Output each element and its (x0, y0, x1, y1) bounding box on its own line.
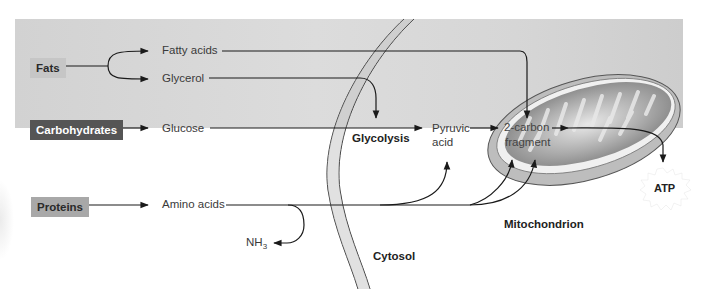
glycerol-label: Glycerol (162, 72, 204, 85)
nh3-label: NH3 (246, 236, 267, 253)
mitochondrion-label: Mitochondrion (504, 218, 584, 231)
two-carbon-label-line1: 2-carbon (504, 121, 549, 134)
fatty-acids-label: Fatty acids (162, 44, 218, 57)
glycolysis-label: Glycolysis (352, 132, 410, 145)
cytosol-label: Cytosol (373, 250, 415, 263)
page-edge-blotch (0, 180, 14, 260)
pyruvic-acid-label-line2: acid (432, 136, 453, 149)
carbohydrates-label: Carbohydrates (36, 124, 117, 136)
atp-label: ATP (654, 182, 675, 194)
two-carbon-label-line2: fragment (505, 136, 550, 149)
nh3-main: NH (246, 236, 263, 248)
glucose-label: Glucose (162, 122, 204, 135)
proteins-label: Proteins (37, 201, 83, 213)
fats-label: Fats (36, 62, 60, 74)
amino-acids-label: Amino acids (162, 198, 225, 211)
fats-box: Fats (30, 58, 66, 78)
nh3-subscript: 3 (263, 242, 267, 251)
proteins-box: Proteins (31, 197, 89, 217)
pyruvic-acid-label-line1: Pyruvic (432, 122, 470, 135)
carbohydrates-box: Carbohydrates (30, 120, 123, 140)
